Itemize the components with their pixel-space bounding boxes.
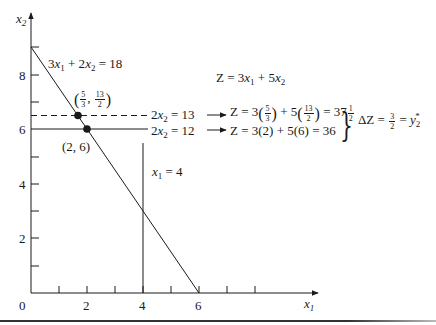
x-tick-0: 0 bbox=[19, 299, 26, 312]
y-tick-6: 6 bbox=[19, 123, 26, 136]
delta-z: ΔZ = 32 = y2* bbox=[358, 112, 420, 131]
right-brace: } bbox=[340, 107, 353, 141]
y-tick-8: 8 bbox=[19, 69, 26, 82]
point-2-6 bbox=[83, 125, 91, 133]
y-ticks bbox=[31, 47, 39, 266]
bottom-rule bbox=[0, 320, 436, 322]
point-label-5-3-13-2: (53, 132) bbox=[74, 90, 111, 109]
row-2x2-13-z: Z = 3(53) + 5(132) = 3712 bbox=[230, 104, 355, 123]
row-2x2-12-constraint: 2x2 = 12 bbox=[151, 124, 195, 137]
x-ticks bbox=[59, 286, 255, 293]
y-axis-label: x2 bbox=[16, 12, 26, 25]
row-2x2-12-z: Z = 3(2) + 5(6) = 36 bbox=[230, 124, 336, 137]
constraint-label-main: 3x1 + 2x2 = 18 bbox=[48, 57, 122, 70]
x-axis-label: x1 bbox=[304, 297, 314, 310]
x-tick-2: 2 bbox=[83, 299, 90, 312]
point-label-2-6: (2, 6) bbox=[62, 140, 90, 153]
objective-function: Z = 3x1 + 5x2 bbox=[216, 71, 285, 84]
point-5-3-13-2 bbox=[74, 112, 82, 120]
y-tick-2: 2 bbox=[19, 232, 26, 245]
x-tick-6: 6 bbox=[195, 299, 202, 312]
row-2x2-13-constraint: 2x2 = 13 bbox=[151, 108, 195, 121]
lp-graph bbox=[0, 0, 436, 325]
y-tick-4: 4 bbox=[19, 178, 26, 191]
constraint-label-x1-4: x1 = 4 bbox=[152, 165, 183, 178]
x-tick-4: 4 bbox=[139, 299, 146, 312]
